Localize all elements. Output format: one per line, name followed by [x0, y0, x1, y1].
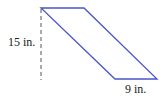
- height-label: 15 in.: [8, 36, 35, 48]
- parallelogram-diagram: 15 in. 9 in.: [0, 0, 164, 97]
- parallelogram-shape: [41, 8, 157, 79]
- base-label: 9 in.: [125, 83, 146, 95]
